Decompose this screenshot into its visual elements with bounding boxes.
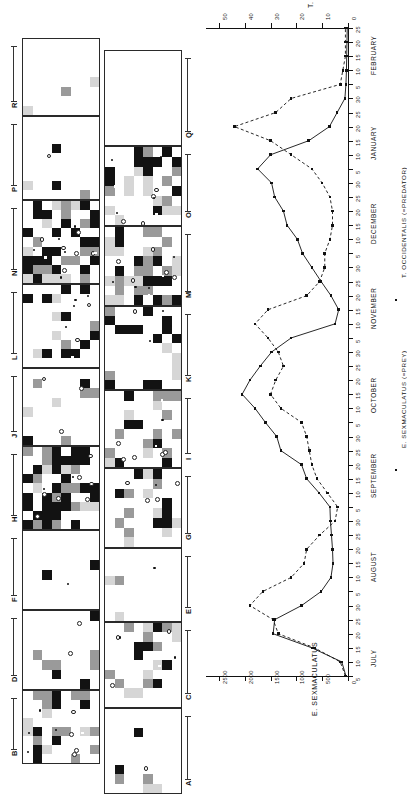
grid-cell: [33, 465, 43, 474]
grid-cell: [143, 489, 153, 499]
grid-cell: [162, 709, 172, 718]
data-point-marker: [259, 365, 262, 368]
data-point-marker: [316, 477, 319, 480]
grid-cell: [124, 79, 134, 88]
grid-cell: [61, 87, 71, 97]
grid-cell: [71, 670, 81, 680]
grid-cell: [23, 87, 33, 97]
grid-cell: [134, 632, 144, 641]
grid-cell: [143, 391, 153, 401]
grid-cell: [90, 709, 100, 718]
grid-cell: [52, 465, 62, 474]
grid-cell: [33, 631, 43, 641]
grid-cell: [42, 621, 52, 631]
grid-cell: [23, 679, 33, 689]
data-point-marker: [280, 407, 283, 410]
grid-cell: [33, 426, 43, 436]
grid-cell: [52, 417, 62, 427]
grid-cell: [23, 237, 33, 246]
grid-cell: [90, 219, 100, 228]
grid-cell: [115, 429, 125, 439]
panel-id-a: A: [184, 781, 193, 786]
grid-cell: [143, 126, 153, 135]
grid-cell: [105, 784, 115, 793]
grid-cell: [90, 153, 100, 162]
grid-cell: [33, 417, 43, 427]
grid-panel-d: [22, 610, 100, 690]
grid-cell: [90, 727, 100, 736]
grid-cell: [23, 274, 33, 283]
data-point-marker: [345, 69, 348, 72]
grid-cell: [162, 196, 172, 206]
grid-cell: [143, 401, 153, 411]
grid-cell: [33, 228, 43, 237]
grid-cell: [61, 417, 71, 427]
grid-cell: [153, 107, 163, 116]
grid-cell: [80, 417, 90, 427]
grid-cell: [42, 349, 52, 358]
grid-cell: [162, 286, 172, 296]
grid-cell: [153, 537, 163, 547]
grid-cell: [90, 379, 100, 389]
grid-cell: [124, 709, 134, 718]
grid-cell: [105, 518, 115, 528]
grid-cell: [153, 479, 163, 489]
grid-cell: [162, 98, 172, 107]
grid-cell: [105, 60, 115, 69]
grid-cell: [143, 107, 153, 116]
grid-cell: [23, 631, 33, 641]
grid-cell: [115, 469, 125, 479]
grid-cell: [134, 167, 144, 177]
grid-cell: [80, 631, 90, 641]
grid-cell: [80, 228, 90, 237]
grid-cell: [61, 219, 71, 228]
grid-cell: [52, 551, 62, 561]
grid-cell: [143, 227, 153, 237]
grid-cell: [124, 429, 134, 439]
grid-cell: [162, 429, 172, 439]
grid-dot-marker: [116, 212, 118, 214]
grid-cell: [23, 570, 33, 580]
grid-cell: [80, 660, 90, 670]
grid-cell: [162, 70, 172, 79]
grid-cell: [23, 163, 33, 172]
panel-id-f: F: [10, 597, 19, 602]
grid-cell: [71, 321, 81, 330]
data-point-marker: [290, 97, 293, 100]
grid-highlight: [148, 294, 150, 296]
grid-cell: [61, 331, 71, 340]
grid-cell: [124, 728, 134, 737]
grid-cell: [33, 570, 43, 580]
grid-cell: [105, 325, 115, 334]
grid-cell: [172, 215, 182, 225]
grid-cell: [162, 256, 172, 266]
grid-cell: [115, 286, 125, 296]
grid-cell: [124, 518, 134, 528]
grid-cell: [80, 340, 90, 349]
grid-cell: [172, 237, 182, 247]
grid-cell: [80, 58, 90, 68]
data-point-marker: [330, 534, 333, 537]
grid-cell: [80, 181, 90, 190]
grid-cell: [61, 407, 71, 417]
grid-cell: [143, 307, 153, 316]
grid-cell: [90, 465, 100, 474]
grid-cell: [52, 87, 62, 97]
grid-cell: [105, 670, 115, 679]
grid-cell: [153, 371, 163, 380]
grid-cell: [23, 172, 33, 181]
grid-cell: [71, 590, 81, 600]
data-point-marker: [305, 548, 308, 551]
grid-cell: [134, 176, 144, 186]
grid-cell: [124, 737, 134, 746]
grid-cell: [162, 247, 172, 257]
grid-cell: [52, 679, 62, 689]
grid-cell: [105, 391, 115, 401]
grid-cell: [143, 679, 153, 688]
grid-cell: [23, 349, 33, 358]
grid-cell: [153, 286, 163, 296]
grid-dot-marker: [74, 251, 79, 256]
grid-cell: [42, 599, 52, 609]
grid-dot-marker: [33, 249, 35, 251]
grid-cell: [71, 447, 81, 456]
